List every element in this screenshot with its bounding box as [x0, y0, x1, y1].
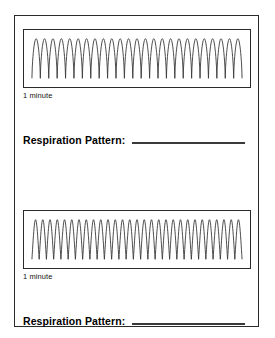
respiration-pattern-blank-1[interactable] — [132, 142, 245, 144]
duration-label-1: 1 minute — [23, 91, 53, 101]
worksheet-frame: 1 minute Respiration Pattern: 1 minute R… — [14, 15, 259, 327]
respiration-pattern-label-2: Respiration Pattern: — [23, 315, 125, 327]
answer-row-1: Respiration Pattern: — [23, 134, 247, 146]
respiration-trace-box-1 — [23, 29, 251, 88]
respiration-pattern-blank-2[interactable] — [132, 323, 245, 325]
respiration-pattern-label-1: Respiration Pattern: — [23, 134, 125, 146]
respiration-trace-box-2 — [23, 210, 251, 269]
respiration-waveform-1 — [24, 30, 250, 87]
respiration-waveform-2 — [24, 211, 250, 268]
duration-label-2: 1 minute — [23, 272, 53, 282]
answer-row-2: Respiration Pattern: — [23, 315, 247, 327]
